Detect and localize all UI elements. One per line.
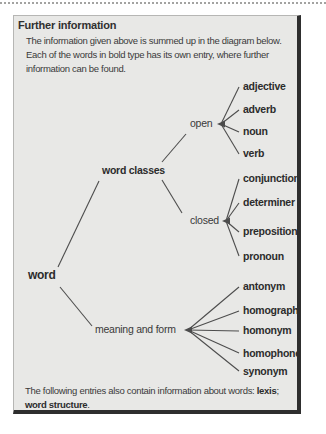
leaf-verb: verb: [243, 147, 264, 160]
intro-line: The information given above is summed up…: [26, 34, 281, 48]
top-dotted-rule: [0, 2, 326, 4]
leaf-homonym: homonym: [243, 324, 291, 337]
edge-word-classes-to-open: [162, 134, 186, 162]
leaf-determiner: determiner: [243, 196, 295, 209]
leaf-noun: noun: [243, 125, 268, 138]
closed-fan-lines: [222, 179, 239, 256]
leaf-homograph: homograph: [243, 304, 299, 317]
box-intro: The information given above is summed up…: [26, 34, 281, 76]
open-fan-lines: [217, 87, 239, 154]
box-title: Further information: [18, 19, 116, 32]
node-word-classes: word classes: [102, 164, 165, 177]
node-word: word: [28, 269, 55, 282]
further-information-box: Further information The information give…: [13, 15, 301, 414]
intro-line: Each of the words in bold type has its o…: [26, 48, 281, 62]
node-meaning-and-form: meaning and form: [95, 323, 176, 336]
node-open: open: [190, 117, 212, 130]
leaf-conjunction: conjunction: [243, 172, 300, 185]
footer-separator: ;: [276, 385, 278, 396]
meaning-fan-lines: [184, 287, 239, 371]
leaf-antonym: antonym: [243, 280, 285, 293]
box-footer: The following entries also contain infor…: [25, 384, 301, 412]
footer-ref-word-structure: word structure: [25, 399, 87, 410]
leaf-synonym: synonym: [243, 365, 287, 378]
leaf-homophone: homophone: [243, 347, 301, 360]
footer-ref-lexis: lexis: [257, 385, 277, 396]
intro-line: information can be found.: [26, 62, 281, 76]
footer-text: The following entries also contain infor…: [25, 385, 257, 396]
leaf-adjective: adjective: [243, 80, 286, 93]
leaf-pronoun: pronoun: [243, 250, 284, 263]
edge-word-classes-to-closed: [162, 180, 182, 213]
footer-end: .: [87, 399, 89, 410]
word-tree-diagram: word word classes open closed meaning an…: [14, 80, 301, 386]
edge-word-to-meaning-and-form: [60, 287, 92, 326]
leaf-preposition: preposition: [243, 225, 297, 238]
node-closed: closed: [190, 214, 219, 227]
edge-word-to-word-classes: [58, 181, 99, 267]
leaf-adverb: adverb: [243, 103, 276, 116]
